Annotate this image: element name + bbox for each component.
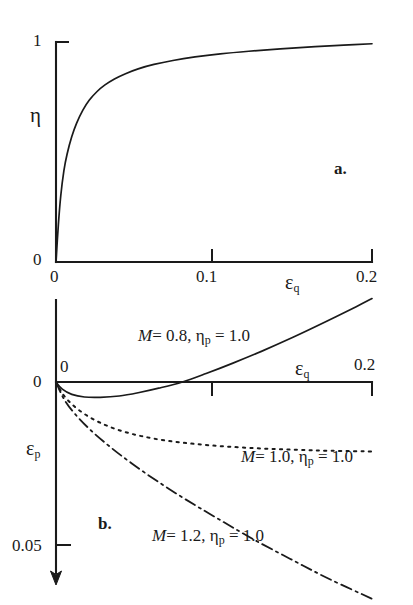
annotation-m12-value: = 1.2, xyxy=(166,526,205,545)
panel-b-caption: b. xyxy=(98,515,112,532)
panel-b-curve-m12 xyxy=(56,382,372,599)
figure-container: 1 0 η 0 0.1 0.2 εq a. 0 0 0.05 εp εq 0.2… xyxy=(0,0,413,605)
annotation-m08-symbol: M xyxy=(138,326,152,345)
panel-a-xtick-label-0.1: 0.1 xyxy=(196,268,217,285)
panel-b-x-axis-label: εq xyxy=(295,358,309,380)
panel-a-x-axis-subscript: q xyxy=(293,281,299,295)
annotation-m08-eta: η xyxy=(196,326,205,345)
panel-b-annotation-m12: M= 1.2, ηp = 1.0 xyxy=(152,527,264,546)
panel-b-ytick-label-0-left: 0 xyxy=(33,373,42,390)
panel-b-ytick-label-0.05: 0.05 xyxy=(12,537,42,554)
annotation-m12-eta-subscript: p xyxy=(219,533,225,547)
panel-b-annotation-m10: M= 1.0, ηp = 1.0 xyxy=(241,448,353,467)
annotation-m12-eta-value: = 1.0 xyxy=(229,526,264,545)
annotation-m12-eta: η xyxy=(210,526,219,545)
panel-a-xtick-label-0.2: 0.2 xyxy=(356,268,377,285)
panel-b-y-axis-label: εp xyxy=(26,438,40,460)
annotation-m10-eta-subscript: p xyxy=(308,454,314,468)
annotation-m08-eta-subscript: p xyxy=(205,333,211,347)
panel-a-y-axis-label: η xyxy=(30,105,41,126)
annotation-m10-symbol: M xyxy=(241,447,255,466)
panel-b-origin-label-0: 0 xyxy=(60,358,69,375)
panel-b-x-axis-subscript: q xyxy=(303,367,309,381)
panel-a-x-axis-label: εq xyxy=(285,272,299,294)
panel-a-caption: a. xyxy=(334,160,347,177)
panel-a-curve-eta xyxy=(56,44,372,262)
panel-b-xtick-label-0.2: 0.2 xyxy=(354,356,375,373)
panel-a-xtick-label-0: 0 xyxy=(50,268,59,285)
annotation-m10-value: = 1.0, xyxy=(255,447,294,466)
annotation-m08-value: = 0.8, xyxy=(152,326,191,345)
panel-b-annotation-m08: M= 0.8, ηp = 1.0 xyxy=(138,327,250,346)
panel-b-y-axis-subscript: p xyxy=(34,447,40,461)
annotation-m08-eta-value: = 1.0 xyxy=(215,326,250,345)
panel-a-ytick-label-1: 1 xyxy=(33,32,42,49)
panel-a-ytick-label-0: 0 xyxy=(33,251,42,268)
annotation-m10-eta-value: = 1.0 xyxy=(318,447,353,466)
panel-a-plot xyxy=(0,0,413,290)
annotation-m12-symbol: M xyxy=(152,526,166,545)
annotation-m10-eta: η xyxy=(299,447,308,466)
